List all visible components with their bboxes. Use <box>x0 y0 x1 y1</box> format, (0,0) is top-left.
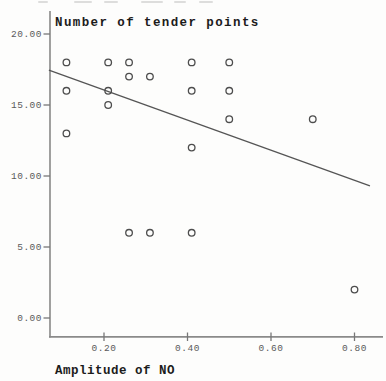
data-point-marker <box>105 59 112 66</box>
data-point-marker <box>226 59 233 66</box>
scatter-plot: 20.0015.0010.005.000.000.200.400.600.80 <box>0 0 386 381</box>
data-point-marker <box>351 286 358 293</box>
y-tick-label: 15.00 <box>11 100 42 111</box>
data-point-marker <box>188 144 195 151</box>
data-point-marker <box>147 230 154 237</box>
x-tick-label: 0.20 <box>92 343 117 354</box>
x-tick-label: 0.40 <box>175 343 200 354</box>
data-point-marker <box>63 130 70 137</box>
data-point-marker <box>105 102 112 109</box>
regression-line <box>49 70 370 186</box>
data-point-marker <box>188 59 195 66</box>
data-point-marker <box>188 230 195 237</box>
data-point-marker <box>226 88 233 95</box>
data-point-marker <box>188 88 195 95</box>
data-point-marker <box>63 59 70 66</box>
y-tick-label: 10.00 <box>11 171 42 182</box>
x-tick-label: 0.80 <box>342 343 367 354</box>
y-tick-label: 20.00 <box>11 29 42 40</box>
y-tick-label: 0.00 <box>17 313 42 324</box>
x-tick-label: 0.60 <box>259 343 284 354</box>
data-point-marker <box>126 73 133 80</box>
data-point-marker <box>126 230 133 237</box>
data-point-marker <box>147 73 154 80</box>
data-point-marker <box>309 116 316 123</box>
x-axis-label: Amplitude of NO <box>55 364 175 378</box>
scatter-chart-figure: Number of tender points 20.0015.0010.005… <box>0 0 386 381</box>
data-point-marker <box>63 88 70 95</box>
y-tick-label: 5.00 <box>17 242 42 253</box>
data-point-marker <box>126 59 133 66</box>
data-point-marker <box>226 116 233 123</box>
